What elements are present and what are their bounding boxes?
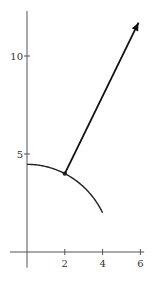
chart-canvas: 246510 <box>0 0 159 289</box>
tick-marks <box>24 56 140 255</box>
axes <box>10 11 144 268</box>
gradient-arrow-line <box>65 23 139 174</box>
plot-area <box>27 23 139 213</box>
tick-labels: 246510 <box>10 51 143 270</box>
y-tick-label: 5 <box>17 149 23 160</box>
x-tick-label: 2 <box>62 258 68 269</box>
x-tick-label: 6 <box>137 258 143 269</box>
x-tick-label: 4 <box>99 258 105 269</box>
y-tick-label: 10 <box>10 51 23 62</box>
